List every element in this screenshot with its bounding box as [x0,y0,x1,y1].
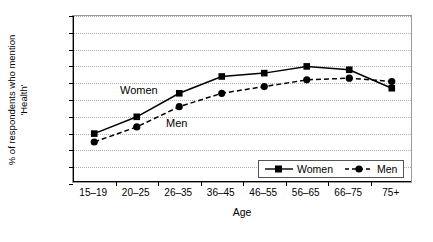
data-point-women-0 [91,130,98,137]
data-point-women-7 [388,85,395,92]
y-axis-title-line2: 'Health' [18,35,30,165]
data-point-men-6 [346,75,353,82]
data-point-men-2 [176,103,183,110]
chart-container: % of respondents who mention 'Health' 01… [0,0,433,242]
y-axis-title: % of respondents who mention 'Health' [0,0,36,200]
y-axis-title-line1: % of respondents who mention [6,35,18,165]
data-point-women-2 [176,90,183,97]
data-point-women-5 [303,63,310,70]
data-point-women-6 [346,66,353,73]
series-annotation-men: Men [166,118,187,129]
legend-label-men: Men [377,164,397,175]
x-axis-title: Age [72,206,412,218]
series-plot [73,16,413,184]
data-point-men-7 [388,78,395,85]
legend-swatch-women-icon [265,163,293,175]
data-point-men-0 [91,138,98,145]
legend-item-men: Men [345,163,397,175]
legend-item-women: Women [265,163,333,175]
data-point-men-1 [133,123,140,130]
y-tick-mark [69,184,73,185]
x-tick-label: 75+ [361,187,421,198]
data-point-men-3 [218,90,225,97]
data-point-women-3 [218,73,225,80]
data-point-women-4 [261,70,268,77]
chart-legend: Women Men [258,160,404,178]
legend-swatch-men-icon [345,163,373,175]
legend-label-women: Women [297,164,333,175]
series-annotation-women: Women [120,85,158,96]
plot-area [72,15,412,183]
data-point-men-5 [303,76,310,83]
data-point-men-4 [261,83,268,90]
data-point-women-1 [133,114,140,121]
